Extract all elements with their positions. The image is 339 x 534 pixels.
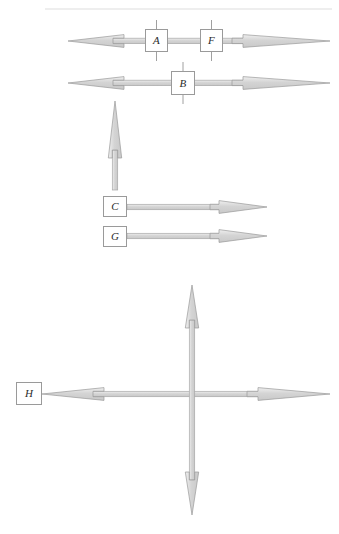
arrow-row-c [127, 201, 267, 214]
figure-canvas: A F B C G H [0, 0, 339, 534]
arrow-cross-horizontal [42, 388, 330, 401]
arrow-vertical-up [108, 101, 121, 190]
arrow-row-b [68, 77, 330, 90]
node-label-g: G [111, 231, 119, 242]
figure-vector-layer [0, 0, 339, 534]
node-label-h: H [25, 388, 33, 399]
node-label-b: B [180, 78, 187, 89]
node-box-g[interactable]: G [103, 226, 127, 247]
arrow-cross-vertical [185, 285, 198, 515]
arrow-row-g [127, 230, 267, 243]
node-box-b[interactable]: B [171, 71, 195, 95]
node-label-c: C [111, 201, 119, 212]
node-box-c[interactable]: C [103, 196, 127, 217]
node-box-a[interactable]: A [145, 29, 168, 52]
node-box-f[interactable]: F [200, 29, 223, 52]
node-label-f: F [208, 35, 215, 46]
node-box-h[interactable]: H [16, 382, 42, 405]
arrow-row-a-f [68, 35, 330, 48]
node-label-a: A [153, 35, 160, 46]
